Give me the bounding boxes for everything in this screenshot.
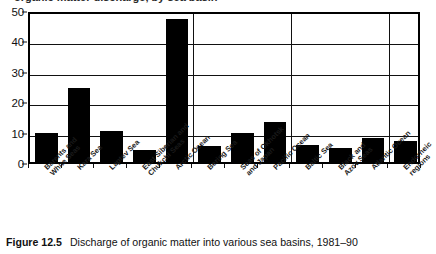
x-tick-mark (322, 164, 323, 168)
x-tick-mark (191, 164, 192, 168)
x-tick-mark (224, 164, 225, 168)
x-tick-mark (126, 164, 127, 168)
x-tick-mark (420, 164, 421, 168)
y-tick-mark-10 (22, 133, 27, 134)
y-tick-mark-40 (22, 42, 27, 43)
x-tick-mark (257, 164, 258, 168)
caption-label: Figure 12.5 (6, 236, 62, 248)
y-tick-mark-50 (22, 12, 27, 13)
x-tick-mark (355, 164, 356, 168)
y-tick-mark-0 (22, 164, 27, 165)
caption-text: Discharge of organic matter into various… (70, 236, 358, 248)
x-tick-mark (159, 164, 160, 168)
x-tick-mark (28, 164, 29, 168)
y-tick-mark-20 (22, 103, 27, 104)
figure-caption: Figure 12.5Discharge of organic matter i… (6, 236, 358, 248)
x-tick-mark (61, 164, 62, 168)
x-tick-mark (93, 164, 94, 168)
x-tick-mark (289, 164, 290, 168)
x-tick-mark (387, 164, 388, 168)
y-tick-mark-30 (22, 72, 27, 73)
x-axis-labels: Barents andWhite SeasKara SeaLaptev SeaE… (0, 166, 427, 228)
